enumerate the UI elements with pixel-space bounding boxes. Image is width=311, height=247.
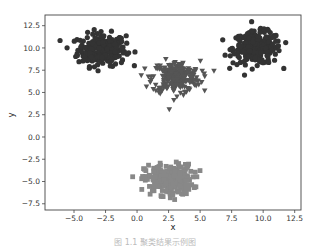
- data-point: [250, 39, 255, 44]
- data-point: [268, 30, 273, 35]
- data-point: [151, 178, 156, 183]
- data-point: [259, 59, 264, 64]
- data-point: [242, 73, 247, 78]
- data-point: [78, 38, 83, 43]
- data-point: [232, 51, 237, 56]
- cluster-1-points: [57, 27, 137, 73]
- y-tick-label: 0.0: [28, 133, 40, 142]
- data-point: [283, 40, 288, 45]
- data-point: [144, 85, 150, 90]
- data-point: [175, 190, 180, 195]
- data-point: [172, 197, 177, 202]
- x-tick-label: −2.5: [96, 214, 114, 223]
- figure-caption: 图 1.1 聚类结果示例图: [114, 237, 196, 247]
- data-point: [87, 66, 92, 71]
- data-point: [276, 43, 281, 48]
- data-point: [72, 39, 77, 44]
- data-point: [92, 64, 97, 69]
- data-point: [172, 173, 177, 178]
- data-point: [202, 74, 208, 79]
- data-point: [164, 181, 169, 186]
- data-point: [83, 45, 88, 50]
- y-tick-label: −2.5: [22, 155, 40, 164]
- data-point: [64, 45, 69, 50]
- data-point: [132, 49, 137, 54]
- data-point: [198, 168, 203, 173]
- data-point: [170, 181, 175, 186]
- data-point: [143, 174, 148, 179]
- data-point: [258, 50, 263, 55]
- data-point: [132, 63, 137, 68]
- data-point: [177, 175, 182, 180]
- data-point: [270, 42, 275, 47]
- scatter-points: [57, 19, 288, 202]
- data-point: [119, 45, 124, 50]
- data-point: [177, 184, 182, 189]
- data-point: [130, 174, 135, 179]
- data-point: [266, 60, 271, 65]
- cluster-4-points: [130, 160, 202, 202]
- data-point: [211, 69, 217, 74]
- data-point: [124, 33, 129, 38]
- data-point: [124, 41, 129, 46]
- data-point: [170, 193, 175, 198]
- data-point: [146, 163, 151, 168]
- data-point: [90, 41, 95, 46]
- data-point: [171, 98, 177, 103]
- y-tick-label: −7.5: [22, 199, 40, 208]
- data-point: [126, 50, 131, 55]
- cluster-3-points: [138, 57, 216, 112]
- data-point: [78, 44, 83, 49]
- data-point: [249, 19, 254, 24]
- x-tick-label: 5.0: [194, 214, 206, 223]
- data-point: [119, 60, 124, 65]
- y-tick-label: 2.5: [28, 110, 40, 119]
- data-point: [256, 34, 261, 39]
- data-point: [101, 33, 106, 38]
- data-point: [112, 49, 117, 54]
- x-tick-label: 0.0: [131, 214, 143, 223]
- y-axis-label: y: [6, 112, 16, 117]
- data-point: [163, 57, 169, 62]
- y-tick-label: 10.0: [23, 44, 40, 53]
- data-point: [223, 53, 228, 58]
- data-point: [162, 173, 167, 178]
- data-point: [109, 57, 114, 62]
- data-point: [265, 54, 270, 59]
- data-point: [147, 184, 152, 189]
- data-point: [100, 40, 105, 45]
- data-point: [119, 39, 124, 44]
- y-axis-ticks: −7.5−5.0−2.50.02.55.07.510.012.5: [22, 21, 45, 208]
- x-axis-label: x: [170, 222, 175, 232]
- data-point: [178, 165, 183, 170]
- data-point: [156, 184, 161, 189]
- scatter-figure: −5.0−2.50.02.55.07.510.012.5 −7.5−5.0−2.…: [0, 0, 311, 247]
- x-tick-label: −5.0: [65, 214, 83, 223]
- data-point: [261, 26, 266, 31]
- data-point: [143, 168, 148, 173]
- data-point: [247, 48, 252, 53]
- x-tick-label: 12.5: [286, 214, 303, 223]
- y-tick-label: −5.0: [22, 177, 40, 186]
- data-point: [148, 80, 154, 85]
- y-tick-label: 12.5: [23, 21, 40, 30]
- x-axis-ticks: −5.0−2.50.02.55.07.510.012.5: [65, 210, 303, 223]
- data-point: [246, 54, 251, 59]
- data-point: [184, 183, 189, 188]
- y-tick-label: 7.5: [28, 66, 40, 75]
- data-point: [227, 66, 232, 71]
- data-point: [104, 46, 109, 51]
- data-point: [92, 27, 97, 32]
- data-point: [85, 35, 90, 40]
- data-point: [159, 193, 164, 198]
- data-point: [184, 178, 189, 183]
- data-point: [186, 187, 191, 192]
- data-point: [112, 42, 117, 47]
- cluster-2-points: [220, 19, 288, 78]
- data-point: [142, 66, 148, 71]
- data-point: [264, 34, 269, 39]
- data-point: [158, 161, 163, 166]
- data-point: [89, 55, 94, 60]
- data-point: [177, 171, 182, 176]
- data-point: [168, 166, 173, 171]
